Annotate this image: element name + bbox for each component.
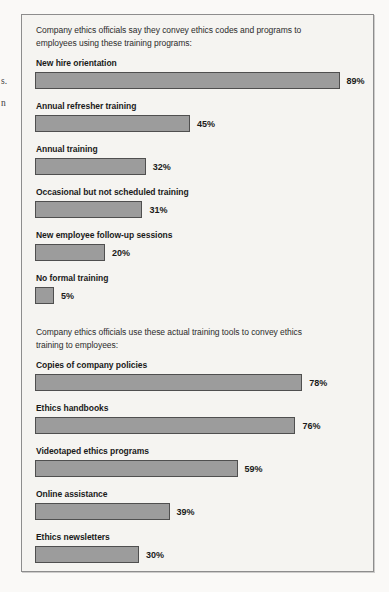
bar-value-label: 30%: [146, 550, 164, 560]
chart-section: Company ethics officials use these actua…: [35, 326, 361, 563]
bar-group: Ethics newsletters30%: [35, 532, 361, 563]
bar-value-label: 59%: [245, 464, 263, 474]
bar: [35, 72, 340, 89]
chart-intro-line: Company ethics officials say they convey…: [36, 24, 361, 37]
bar-row: 76%: [35, 417, 361, 434]
bar-category-label: Ethics newsletters: [36, 532, 361, 542]
chart-intro-text: Company ethics officials use these actua…: [36, 326, 361, 352]
bar-group: Annual refresher training45%: [35, 101, 361, 132]
chart-intro-line: Company ethics officials use these actua…: [36, 326, 361, 339]
bar-row: 30%: [35, 546, 361, 563]
scanned-page: s. n Company ethics officials say they c…: [0, 0, 389, 592]
bar: [35, 244, 105, 261]
bar-group: Copies of company policies78%: [35, 360, 361, 391]
bar-value-label: 5%: [61, 291, 74, 301]
bar-category-label: No formal training: [36, 273, 361, 283]
bar-group: Online assistance39%: [35, 489, 361, 520]
bar: [35, 287, 54, 304]
bar-row: 59%: [35, 460, 361, 477]
chart-intro-line: training to employees:: [36, 339, 361, 352]
bar-value-label: 76%: [302, 421, 320, 431]
bar-row: 78%: [35, 374, 361, 391]
bar-value-label: 31%: [149, 205, 167, 215]
bar: [35, 201, 142, 218]
bar-category-label: Occasional but not scheduled training: [36, 187, 361, 197]
bar-group: Occasional but not scheduled training31%: [35, 187, 361, 218]
bar-value-label: 78%: [309, 378, 327, 388]
bar: [35, 503, 170, 520]
bar-row: 32%: [35, 158, 361, 175]
bar-category-label: Videotaped ethics programs: [36, 446, 361, 456]
bar-group: No formal training5%: [35, 273, 361, 304]
bar-category-label: Online assistance: [36, 489, 361, 499]
bar-category-label: Ethics handbooks: [36, 403, 361, 413]
chart-intro-line: employees using these training programs:: [36, 37, 361, 50]
bar-value-label: 32%: [153, 162, 171, 172]
bar-row: 20%: [35, 244, 361, 261]
bar-group: New hire orientation89%: [35, 58, 361, 89]
bar-category-label: New hire orientation: [36, 58, 361, 68]
ethics-training-figure-panel: Company ethics officials say they convey…: [21, 14, 374, 572]
chart-section: Company ethics officials say they convey…: [35, 24, 361, 304]
bar: [35, 158, 146, 175]
chart-sections-container: Company ethics officials say they convey…: [35, 24, 361, 563]
bar-row: 39%: [35, 503, 361, 520]
bar-row: 31%: [35, 201, 361, 218]
bar-value-label: 39%: [177, 507, 195, 517]
bar-group: Videotaped ethics programs59%: [35, 446, 361, 477]
chart-intro-text: Company ethics officials say they convey…: [36, 24, 361, 50]
bar: [35, 374, 302, 391]
bar-value-label: 45%: [197, 119, 215, 129]
bar-row: 45%: [35, 115, 361, 132]
left-margin-cutoff-text: s.: [1, 76, 7, 86]
left-margin-cutoff-text: n: [1, 98, 6, 108]
bar-category-label: Copies of company policies: [36, 360, 361, 370]
bar-value-label: 89%: [347, 76, 365, 86]
bar-group: New employee follow-up sessions20%: [35, 230, 361, 261]
bar-value-label: 20%: [112, 248, 130, 258]
bar: [35, 115, 190, 132]
bar-row: 5%: [35, 287, 361, 304]
bar: [35, 417, 295, 434]
bar: [35, 460, 238, 477]
bar-group: Annual training32%: [35, 144, 361, 175]
bar-group: Ethics handbooks76%: [35, 403, 361, 434]
bar-category-label: Annual training: [36, 144, 361, 154]
bar-category-label: Annual refresher training: [36, 101, 361, 111]
bar-row: 89%: [35, 72, 361, 89]
bar: [35, 546, 139, 563]
bar-category-label: New employee follow-up sessions: [36, 230, 361, 240]
